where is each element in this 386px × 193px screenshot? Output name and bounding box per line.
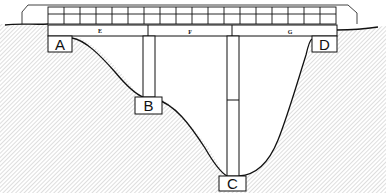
support-d-box (312, 36, 337, 52)
support-a-box (48, 36, 72, 52)
pier-b-column (143, 36, 155, 97)
bridge-diagram (0, 0, 386, 193)
support-b-box (135, 97, 162, 114)
support-c-box (219, 176, 246, 191)
train (22, 5, 357, 24)
bridge-deck (48, 25, 337, 36)
pier-c-column (227, 36, 239, 176)
